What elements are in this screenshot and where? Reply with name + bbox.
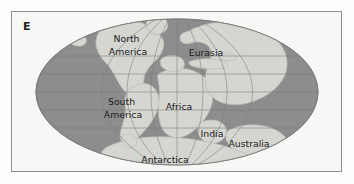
label-eurasia-line1: Eurasia [189, 47, 223, 58]
figure-panel: North America Eurasia South America Afri… [0, 0, 354, 184]
label-australia: Australia [228, 138, 269, 149]
label-north-america-line1: North [114, 33, 140, 44]
label-africa: Africa [166, 101, 193, 112]
panel-letter: E [23, 20, 31, 33]
label-india-line1: India [201, 128, 224, 139]
label-south-america-line2: America [104, 109, 142, 120]
label-south-america-line1: South [108, 96, 135, 107]
label-antarctica: Antarctica [141, 154, 188, 165]
label-north-america-line2: America [109, 46, 147, 57]
landmass-northwest-arc [66, 33, 86, 46]
label-eurasia: Eurasia [189, 47, 223, 58]
label-africa-line1: Africa [166, 101, 193, 112]
label-antarctica-line1: Antarctica [141, 154, 188, 165]
label-australia-line1: Australia [228, 138, 269, 149]
world-map: North America Eurasia South America Afri… [11, 11, 342, 172]
label-india: India [201, 128, 224, 139]
